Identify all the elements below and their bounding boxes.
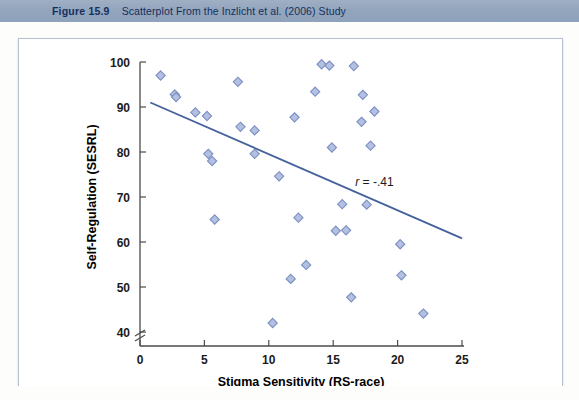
data-point xyxy=(250,149,259,158)
data-point xyxy=(331,226,340,235)
y-axis-title: Self-Regulation (SESRL) xyxy=(85,124,99,269)
data-point xyxy=(325,61,334,70)
data-point xyxy=(210,215,219,224)
data-point xyxy=(327,143,336,152)
data-point xyxy=(349,61,358,70)
data-point xyxy=(338,200,347,209)
data-point xyxy=(294,213,303,222)
data-point xyxy=(357,117,366,126)
data-point xyxy=(250,126,259,135)
y-tick-label-60: 60 xyxy=(117,236,131,250)
data-point xyxy=(311,87,320,96)
x-tick-label-25: 25 xyxy=(455,353,469,367)
annotations-group: r = -.41 xyxy=(355,175,394,189)
data-point xyxy=(370,107,379,116)
regression-line xyxy=(150,103,462,239)
data-points-group xyxy=(156,60,428,328)
data-point xyxy=(156,71,165,80)
data-point xyxy=(191,108,200,117)
x-tick-label-0: 0 xyxy=(137,353,144,367)
data-point xyxy=(366,141,375,150)
data-point xyxy=(358,90,367,99)
x-axis-title: Stigma Sensitivity (RS-race) xyxy=(218,375,385,386)
data-point xyxy=(302,260,311,269)
figure-title: Scatterplot From the Inzlicht et al. (20… xyxy=(122,5,346,17)
x-tick-label-10: 10 xyxy=(262,353,276,367)
y-tick-label-50: 50 xyxy=(117,281,131,295)
data-point xyxy=(396,240,405,249)
data-point xyxy=(268,318,277,327)
axis-lines-group xyxy=(135,62,464,346)
scatterplot-chart: 4050607080901000510152025 r = -.41 Stigm… xyxy=(18,38,561,386)
data-point xyxy=(286,274,295,283)
axis-titles-group: Stigma Sensitivity (RS-race)Self-Regulat… xyxy=(85,124,384,386)
data-point xyxy=(275,172,284,181)
chart-svg: 4050607080901000510152025 r = -.41 Stigm… xyxy=(18,38,561,386)
y-tick-label-90: 90 xyxy=(117,101,131,115)
figure-number: Figure 15.9 xyxy=(52,5,110,17)
data-point xyxy=(347,293,356,302)
y-tick-label-80: 80 xyxy=(117,146,131,160)
data-point xyxy=(317,60,326,69)
data-point xyxy=(202,111,211,120)
x-tick-label-15: 15 xyxy=(327,353,341,367)
x-tick-label-20: 20 xyxy=(391,353,405,367)
x-tick-label-5: 5 xyxy=(201,353,208,367)
data-point xyxy=(419,309,428,318)
figure-header-bar: Figure 15.9 Scatterplot From the Inzlich… xyxy=(0,0,579,22)
data-point xyxy=(290,113,299,122)
page-background xyxy=(0,386,579,400)
data-point xyxy=(362,200,371,209)
correlation-annotation: r = -.41 xyxy=(355,175,394,189)
data-point xyxy=(236,122,245,131)
y-tick-label-70: 70 xyxy=(117,191,131,205)
trendline-group xyxy=(150,103,462,239)
axis-ticks-group: 4050607080901000510152025 xyxy=(110,56,469,368)
data-point xyxy=(233,77,242,86)
y-tick-label-40: 40 xyxy=(117,326,131,340)
y-tick-label-100: 100 xyxy=(110,56,130,70)
data-point xyxy=(397,271,406,280)
data-point xyxy=(341,226,350,235)
